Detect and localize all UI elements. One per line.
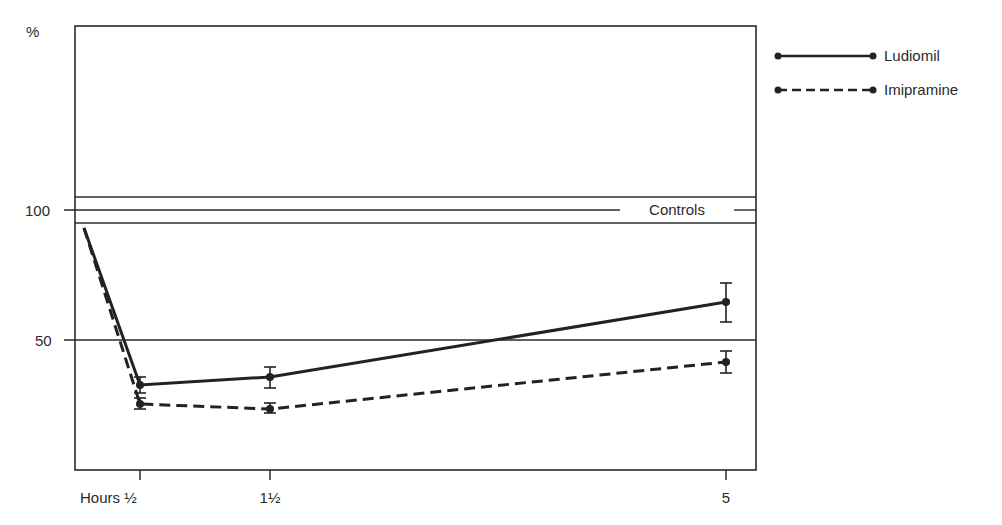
legend: Ludiomil Imipramine: [775, 47, 959, 98]
series-imipramine: [84, 228, 732, 413]
y-tick-50: 50: [35, 332, 52, 349]
x-tick-half: Hours ½: [80, 489, 137, 506]
x-tick-1-5: 1½: [260, 489, 281, 506]
y-unit-label: %: [26, 23, 39, 40]
line-chart: % 100 50 Controls Hours ½ 1½ 5: [0, 0, 1002, 525]
svg-text:Imipramine: Imipramine: [884, 81, 958, 98]
y-tick-100: 100: [25, 202, 50, 219]
series-ludiomil: [84, 228, 732, 393]
plot-frame: [75, 26, 756, 470]
legend-item-imipramine: Imipramine: [775, 81, 959, 98]
svg-text:Ludiomil: Ludiomil: [884, 47, 940, 64]
legend-item-ludiomil: Ludiomil: [775, 47, 940, 64]
controls-label: Controls: [649, 201, 705, 218]
x-tick-5: 5: [722, 489, 730, 506]
